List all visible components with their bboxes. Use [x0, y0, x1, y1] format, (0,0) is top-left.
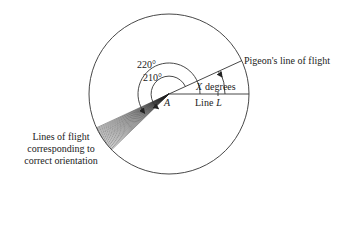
x-variable: X: [195, 81, 203, 92]
label-line-l: LineL: [195, 97, 222, 108]
label-x-degrees: Xdegrees: [195, 81, 236, 92]
fan-caption: Lines of flight corresponding to correct…: [16, 131, 106, 167]
label-vertex-a: A: [163, 97, 171, 108]
caption-line-2: corresponding to: [16, 143, 106, 155]
correct-orientation-fan: [97, 94, 170, 150]
x-unit: degrees: [205, 81, 236, 92]
label-220: 220°: [137, 59, 156, 70]
line-var: L: [215, 97, 222, 108]
label-pigeon-line: Pigeon's line of flight: [244, 55, 330, 66]
label-210: 210°: [143, 72, 162, 83]
caption-line-3: correct orientation: [16, 155, 106, 167]
line-word: Line: [195, 97, 214, 108]
caption-line-1: Lines of flight: [16, 131, 106, 143]
